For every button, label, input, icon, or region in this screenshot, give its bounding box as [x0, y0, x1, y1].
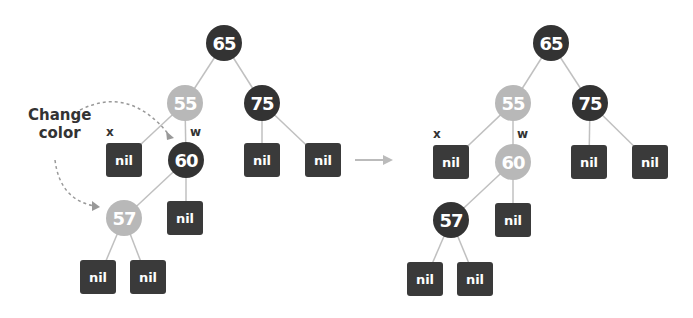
node-65-after: 65: [533, 25, 569, 61]
nil-leaf: nil: [244, 143, 280, 177]
annotation-line-1: Change: [28, 106, 91, 124]
node-75-after: 75: [572, 85, 608, 121]
nil-leaf: nil: [571, 145, 607, 179]
node-65-before: 65: [206, 25, 242, 61]
label-w-after: w: [517, 127, 528, 141]
nil-leaf: nil: [407, 262, 443, 296]
node-55-after: 55: [495, 85, 531, 121]
nil-leaf: nil: [495, 203, 531, 237]
nil-leaf: nil: [433, 145, 469, 179]
node-57-before: 57: [106, 200, 142, 236]
node-75-before: 75: [244, 85, 280, 121]
node-60-after: 60: [495, 144, 531, 180]
change-color-annotation: Change color: [28, 106, 91, 142]
nil-leaf: nil: [305, 143, 341, 177]
nil-leaf: nil: [80, 260, 116, 294]
nil-leaf: nil: [167, 201, 203, 235]
node-60-before: 60: [168, 142, 204, 178]
nil-leaf: nil: [106, 143, 142, 177]
label-w-before: w: [190, 125, 201, 139]
nil-leaf: nil: [632, 145, 668, 179]
annotation-line-2: color: [28, 124, 91, 142]
nil-leaf: nil: [130, 260, 166, 294]
label-x-after: x: [433, 127, 441, 141]
nil-leaf: nil: [457, 262, 493, 296]
node-55-before: 55: [167, 85, 203, 121]
label-x-before: x: [106, 125, 114, 139]
node-57-after: 57: [433, 202, 469, 238]
